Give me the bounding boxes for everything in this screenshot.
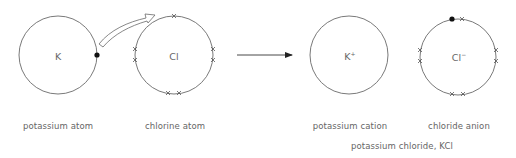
potassium-symbol-text: K: [55, 51, 61, 62]
chloride-anion-label: chloride anion: [428, 121, 490, 131]
electron-transfer-arrow: [99, 14, 155, 47]
product-caption: potassium chloride, KCl: [351, 141, 453, 151]
potassium-atom-label: potassium atom: [23, 121, 93, 131]
potassium-symbol: K: [55, 51, 61, 62]
chlorine-symbol-text: Cl: [169, 51, 178, 62]
diagram-canvas: [0, 0, 516, 158]
chlorine-symbol: Cl: [169, 51, 178, 62]
chloride-anion-symbol-text: Cl: [452, 52, 461, 63]
chloride-transferred-electron-dot: [449, 16, 454, 21]
potassium-cation-symbol: K+: [344, 50, 355, 62]
potassium-cation-charge: +: [351, 50, 356, 57]
chloride-anion-charge: −: [461, 51, 466, 58]
chlorine-atom-label: chlorine atom: [145, 121, 205, 131]
potassium-outer-electron-dot: [94, 52, 99, 57]
potassium-cation-label: potassium cation: [313, 121, 388, 131]
chloride-anion-symbol: Cl−: [452, 51, 466, 63]
